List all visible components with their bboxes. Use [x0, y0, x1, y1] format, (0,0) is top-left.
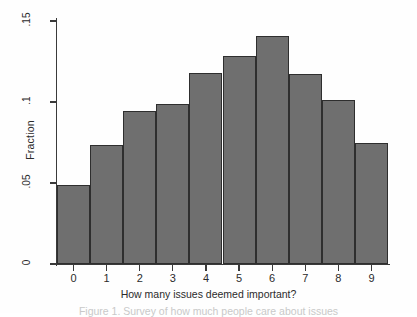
- bar-8: [322, 100, 355, 264]
- bar-6: [256, 36, 289, 264]
- x-tick-6: [272, 265, 273, 271]
- x-axis-label: How many issues deemed important?: [0, 288, 417, 300]
- bar-3: [156, 104, 189, 264]
- x-tick-label-6: 6: [259, 272, 285, 284]
- y-tick-label-3: .15: [21, 0, 32, 40]
- x-tick-1: [106, 265, 107, 271]
- x-tick-2: [139, 265, 140, 271]
- x-tick-label-9: 9: [358, 272, 384, 284]
- x-tick-label-0: 0: [61, 272, 87, 284]
- y-tick-label-1: .05: [21, 162, 32, 202]
- y-tick-label-0: 0: [21, 243, 32, 283]
- bar-7: [289, 74, 322, 264]
- x-tick-label-2: 2: [127, 272, 153, 284]
- x-tick-9: [371, 265, 372, 271]
- plot-area: [57, 21, 388, 264]
- bar-5: [223, 56, 256, 264]
- y-tick-2: [50, 101, 57, 102]
- y-tick-3: [50, 20, 57, 21]
- x-tick-label-1: 1: [94, 272, 120, 284]
- bar-4: [189, 73, 222, 264]
- x-axis-line: [50, 264, 390, 265]
- y-tick-label-2: .1: [21, 81, 32, 121]
- y-tick-1: [50, 182, 57, 183]
- x-tick-7: [305, 265, 306, 271]
- x-tick-label-8: 8: [325, 272, 351, 284]
- bar-2: [123, 111, 156, 264]
- bar-1: [90, 145, 123, 264]
- x-tick-4: [205, 265, 206, 271]
- figure-caption: Figure 1. Survey of how much people care…: [0, 305, 417, 317]
- x-tick-label-4: 4: [193, 272, 219, 284]
- bar-0: [57, 185, 90, 264]
- x-tick-0: [73, 265, 74, 271]
- x-tick-3: [172, 265, 173, 271]
- x-tick-label-7: 7: [292, 272, 318, 284]
- bar-9: [355, 143, 388, 264]
- x-tick-label-5: 5: [226, 272, 252, 284]
- x-tick-5: [238, 265, 239, 271]
- y-tick-0: [50, 263, 57, 264]
- x-tick-8: [338, 265, 339, 271]
- x-tick-label-3: 3: [160, 272, 186, 284]
